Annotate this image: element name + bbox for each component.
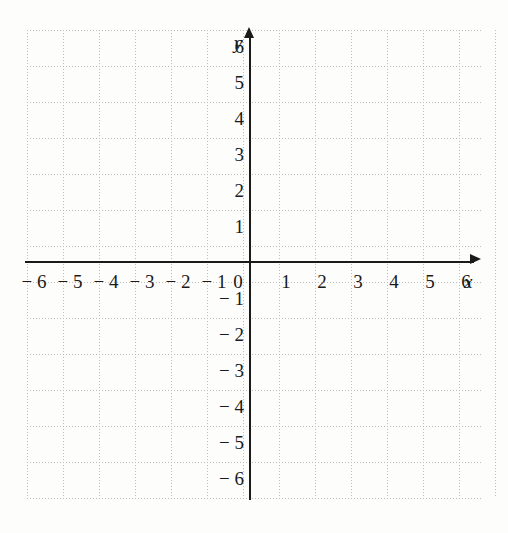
x-tick-label: − 2 xyxy=(166,272,191,291)
gridline-horizontal xyxy=(27,462,482,463)
gridline-horizontal xyxy=(27,426,482,427)
gridline-horizontal xyxy=(27,498,482,499)
gridline-horizontal xyxy=(27,66,482,67)
gridline-horizontal xyxy=(27,138,482,139)
gridline-horizontal xyxy=(27,102,482,103)
x-tick-label: − 4 xyxy=(94,272,119,291)
gridline-horizontal xyxy=(27,318,482,319)
y-axis-line xyxy=(249,34,251,500)
y-tick-label: 3 xyxy=(235,145,245,164)
y-tick-label: − 2 xyxy=(219,325,244,344)
x-tick-label: − 6 xyxy=(22,272,47,291)
y-tick-label: − 3 xyxy=(219,361,244,380)
x-axis-arrowhead-icon xyxy=(470,254,481,264)
gridline-vertical xyxy=(495,30,496,497)
y-tick-label: − 1 xyxy=(219,289,244,308)
y-tick-label: − 4 xyxy=(219,397,244,416)
x-tick-label: − 3 xyxy=(130,272,155,291)
gridline-horizontal xyxy=(27,354,482,355)
grid-area xyxy=(27,30,482,497)
gridline-horizontal xyxy=(27,210,482,211)
gridline-horizontal xyxy=(27,246,482,247)
x-tick-label: 4 xyxy=(389,272,399,291)
y-tick-label: − 6 xyxy=(219,469,244,488)
gridline-horizontal xyxy=(27,174,482,175)
x-tick-label: 1 xyxy=(281,272,291,291)
y-axis-label: y xyxy=(234,33,242,52)
x-tick-label: 5 xyxy=(425,272,435,291)
x-axis-label: x xyxy=(464,272,472,291)
y-tick-label: 4 xyxy=(235,109,245,128)
y-tick-label: 1 xyxy=(235,217,245,236)
coordinate-plane: − 6− 5− 4− 3− 2− 10123456 654321− 1− 2− … xyxy=(0,0,508,533)
gridline-horizontal xyxy=(27,30,482,31)
y-tick-label: 2 xyxy=(235,181,245,200)
y-tick-label: 5 xyxy=(235,73,245,92)
y-axis-arrowhead-icon xyxy=(244,27,254,38)
gridline-horizontal xyxy=(27,390,482,391)
y-tick-label: − 5 xyxy=(219,433,244,452)
x-tick-label: 2 xyxy=(317,272,327,291)
x-tick-label: − 5 xyxy=(58,272,83,291)
x-tick-label: 3 xyxy=(353,272,363,291)
